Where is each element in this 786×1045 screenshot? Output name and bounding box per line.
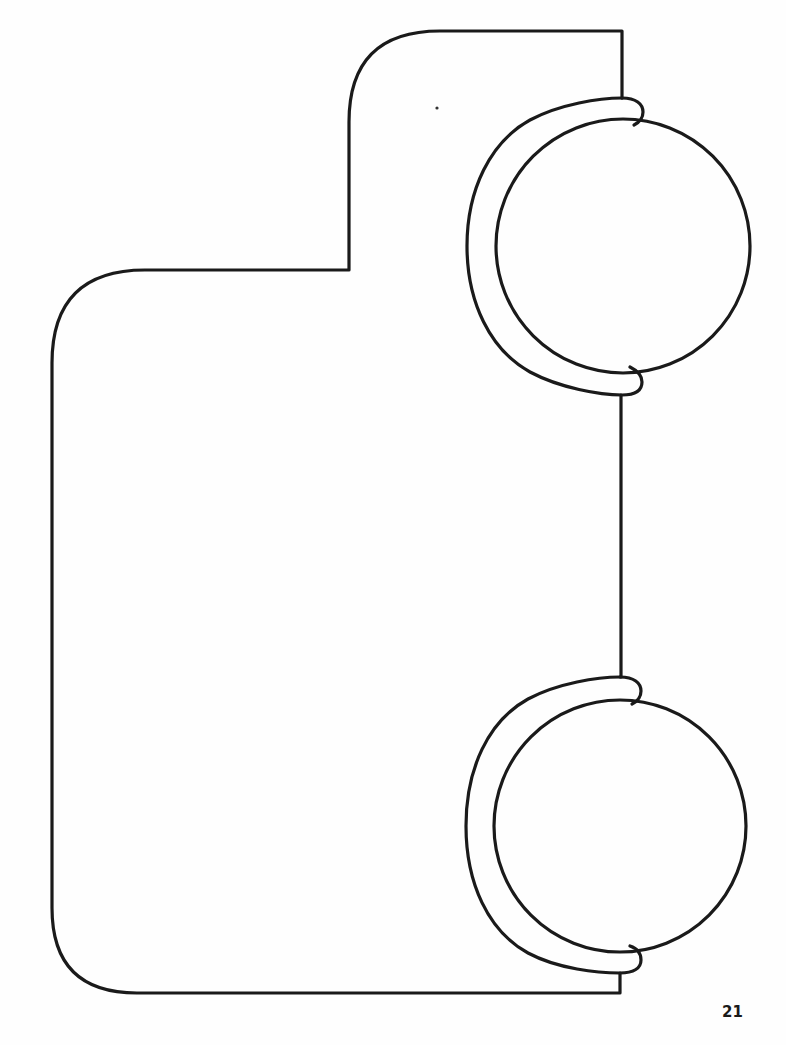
outline-drawing [0,0,786,1045]
scan-speck [435,106,438,109]
lower-globe-bracket [466,677,641,973]
body-outline [52,31,622,993]
page-number: 21 [722,1003,743,1021]
lower-globe-circle [494,700,746,952]
coloring-page: 21 [0,0,786,1045]
upper-globe-circle [496,119,750,373]
upper-globe-bracket [467,98,642,395]
